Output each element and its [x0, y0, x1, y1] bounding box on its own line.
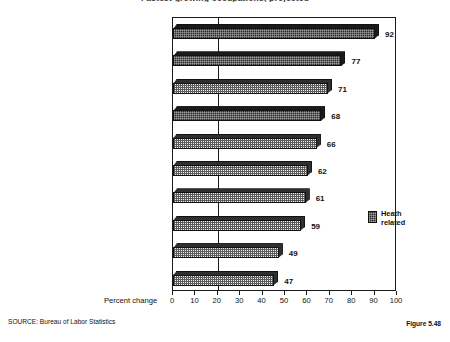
bar-4 [173, 100, 397, 127]
source-note: SOURCE: Bureau of Labor Statistics [8, 318, 115, 325]
chart-figure: Fastest growing occupations, projected H… [0, 0, 450, 342]
legend-swatch-health-related [368, 211, 377, 223]
x-tick-label-80: 80 [339, 296, 363, 305]
value-label-10: 47 [284, 277, 293, 286]
x-tick-label-50: 50 [272, 296, 296, 305]
x-tick-label-90: 90 [362, 296, 386, 305]
x-tick-label-100: 100 [384, 296, 408, 305]
value-label-7: 61 [316, 194, 325, 203]
x-tick-0 [172, 291, 173, 295]
chart-title: Fastest growing occupations, projected [0, 0, 450, 2]
x-tick-30 [239, 291, 240, 295]
value-label-5: 66 [327, 140, 336, 149]
x-tick-50 [284, 291, 285, 295]
x-axis: 0102030405060708090100 [172, 291, 396, 311]
x-axis-title: Percent change [104, 296, 157, 305]
value-label-6: 62 [318, 167, 327, 176]
x-tick-90 [374, 291, 375, 295]
bar-2 [173, 45, 397, 72]
x-tick-label-60: 60 [294, 296, 318, 305]
bar-6 [173, 155, 397, 182]
x-tick-label-70: 70 [317, 296, 341, 305]
bar-8 [173, 210, 397, 237]
bar-1 [173, 18, 397, 45]
legend-label-line2: related [381, 218, 405, 227]
bar-3 [173, 73, 397, 100]
x-tick-label-10: 10 [182, 296, 206, 305]
x-tick-100 [396, 291, 397, 295]
x-tick-label-0: 0 [160, 296, 184, 305]
value-label-4: 68 [331, 112, 340, 121]
x-tick-20 [217, 291, 218, 295]
x-tick-10 [194, 291, 195, 295]
x-tick-40 [262, 291, 263, 295]
x-tick-60 [306, 291, 307, 295]
x-tick-label-40: 40 [250, 296, 274, 305]
value-label-1: 92 [385, 30, 394, 39]
bar-5 [173, 128, 397, 155]
value-label-2: 77 [351, 57, 360, 66]
x-tick-80 [351, 291, 352, 295]
bar-9 [173, 237, 397, 264]
value-label-3: 71 [338, 85, 347, 94]
value-label-8: 59 [311, 222, 320, 231]
legend-label-health-related: Heath related [381, 210, 405, 227]
plot-area [172, 17, 396, 291]
x-tick-label-20: 20 [205, 296, 229, 305]
value-label-9: 49 [289, 249, 298, 258]
x-tick-70 [329, 291, 330, 295]
x-tick-label-30: 30 [227, 296, 251, 305]
bar-7 [173, 182, 397, 209]
figure-number: Figure 5.48 [406, 320, 441, 327]
